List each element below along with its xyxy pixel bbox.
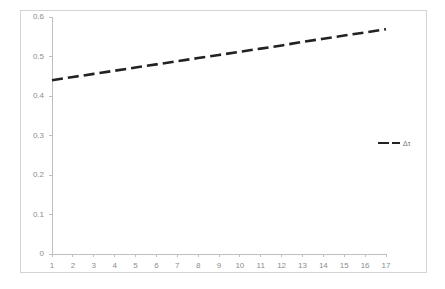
data-series-line bbox=[52, 29, 386, 80]
y-axis-tick-label: 0.6 bbox=[14, 13, 44, 21]
y-axis-tick-label: 0.5 bbox=[14, 53, 44, 61]
y-axis-tick-label: 0.4 bbox=[14, 92, 44, 100]
chart-container: 00.10.20.30.40.50.6 12345678910111213141… bbox=[0, 0, 445, 289]
x-axis-tick-label: 14 bbox=[319, 262, 328, 270]
x-axis-tick-label: 1 bbox=[50, 262, 54, 270]
x-axis-tick-label: 2 bbox=[71, 262, 75, 270]
chart-legend: Δτ bbox=[378, 139, 410, 147]
chart-frame: 00.10.20.30.40.50.6 12345678910111213141… bbox=[20, 10, 427, 273]
x-axis-tick-label: 9 bbox=[217, 262, 221, 270]
x-axis-tick-label: 8 bbox=[196, 262, 200, 270]
plot-area: 00.10.20.30.40.50.6 12345678910111213141… bbox=[52, 17, 386, 254]
x-axis-tick-label: 12 bbox=[277, 262, 286, 270]
x-axis-tick-label: 13 bbox=[298, 262, 307, 270]
x-axis-tick-label: 10 bbox=[235, 262, 244, 270]
x-axis-tick-label: 3 bbox=[92, 262, 96, 270]
x-axis-tick-label: 11 bbox=[257, 262, 265, 270]
plot-svg bbox=[52, 17, 386, 254]
data-series-group bbox=[52, 29, 386, 80]
x-axis-tick-label: 7 bbox=[175, 262, 179, 270]
y-axis-tick-label: 0.1 bbox=[14, 211, 44, 219]
y-axis-tick-label: 0 bbox=[14, 250, 44, 258]
x-axis-tick-label: 6 bbox=[154, 262, 158, 270]
x-axis-tick-label: 17 bbox=[382, 262, 391, 270]
x-axis-tick-label: 15 bbox=[340, 262, 349, 270]
y-axis-tick-label: 0.2 bbox=[14, 171, 44, 179]
x-axis-tick-label: 16 bbox=[361, 262, 370, 270]
legend-label: Δτ bbox=[403, 140, 410, 147]
legend-line-swatch bbox=[378, 139, 400, 147]
y-axis-tick-label: 0.3 bbox=[14, 132, 44, 140]
x-axis-tick-label: 4 bbox=[112, 262, 116, 270]
x-axis-tick-label: 5 bbox=[133, 262, 137, 270]
